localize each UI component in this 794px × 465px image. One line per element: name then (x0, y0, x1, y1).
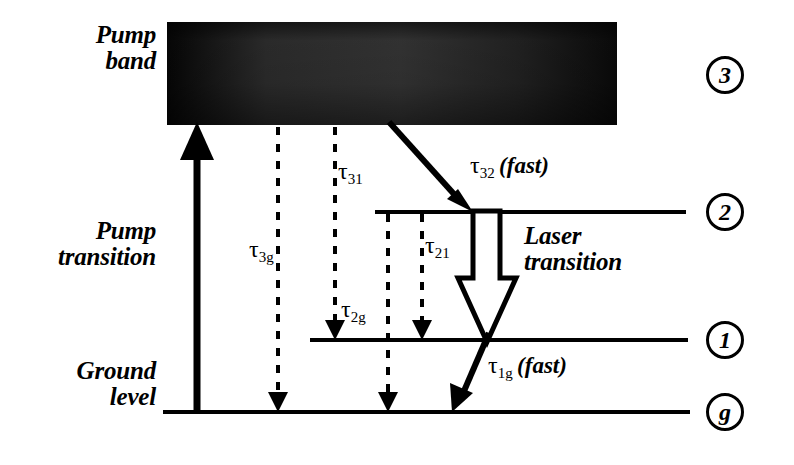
tau-symbol: τ (425, 232, 435, 258)
laser-transition-label: Laser transition (524, 223, 694, 274)
tau-subscript: 2g (351, 309, 366, 325)
tau-subscript: 21 (435, 245, 450, 261)
tau-label-3g: τ3g (249, 236, 274, 266)
tau-subscript: 3g (259, 249, 274, 265)
tau-symbol: τ (488, 352, 498, 378)
level-marker-text: 1 (719, 328, 731, 352)
diagram-canvas: Pump band Pump transition Ground level L… (0, 0, 794, 465)
laser-transition-arrow (458, 211, 516, 342)
decay-arrow-2g (378, 214, 398, 412)
level-marker-text: 2 (719, 200, 731, 224)
tau-label-31: τ31 (338, 158, 363, 188)
ground-level-label: Ground level (14, 358, 156, 409)
tau-symbol: τ (470, 152, 480, 178)
level-marker-text: 3 (719, 63, 731, 87)
pump-transition-label: Pump transition (6, 218, 156, 269)
tau-subscript: 32 (480, 165, 495, 181)
decay-arrow-3g (268, 127, 288, 412)
level-marker-g: g (706, 393, 744, 431)
tau-subscript: 1g (498, 365, 513, 381)
tau-symbol: τ (341, 296, 351, 322)
level-marker-2: 2 (706, 193, 744, 231)
pump-band-rect (167, 22, 617, 125)
tau-symbol: τ (249, 236, 259, 262)
pump-transition-arrow (180, 122, 214, 412)
tau-note: (fast) (495, 153, 549, 178)
tau-label-2g: τ2g (341, 296, 366, 326)
level-marker-1: 1 (706, 321, 744, 359)
tau-symbol: τ (338, 158, 348, 184)
tau-note: (fast) (513, 353, 567, 378)
tau-label-21: τ21 (425, 232, 450, 262)
decay-arrow-32 (389, 122, 473, 212)
level-marker-text: g (719, 400, 731, 424)
pump-band-label: Pump band (20, 22, 156, 73)
tau-label-1g: τ1g(fast) (488, 352, 567, 382)
level-marker-3: 3 (706, 56, 744, 94)
tau-subscript: 31 (348, 171, 363, 187)
tau-label-32: τ32(fast) (470, 152, 549, 182)
decay-arrow-1g (450, 333, 489, 412)
